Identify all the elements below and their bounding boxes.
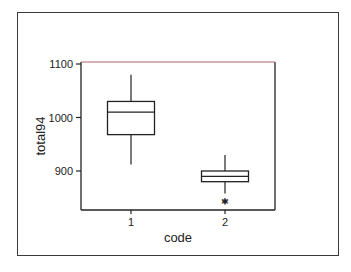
box-category-2: ** [202, 155, 249, 211]
plot-area [81, 62, 275, 210]
boxplot-chart: 90010001100 12 ** code total94 [0, 0, 351, 272]
y-axis-title: total94 [33, 116, 48, 155]
x-axis: 12 [128, 210, 228, 228]
x-axis-title: code [164, 230, 192, 245]
box-category-1 [108, 75, 155, 165]
boxes: ** [108, 75, 249, 211]
x-tick-label: 1 [128, 216, 134, 228]
y-axis: 90010001100 [49, 58, 81, 177]
y-tick-label: 1100 [49, 58, 73, 70]
y-tick-label: 900 [55, 165, 73, 177]
y-tick-label: 1000 [49, 112, 73, 124]
x-tick-label: 2 [222, 216, 228, 228]
iqr-box [108, 101, 155, 134]
outlier-marker: * [222, 196, 229, 211]
